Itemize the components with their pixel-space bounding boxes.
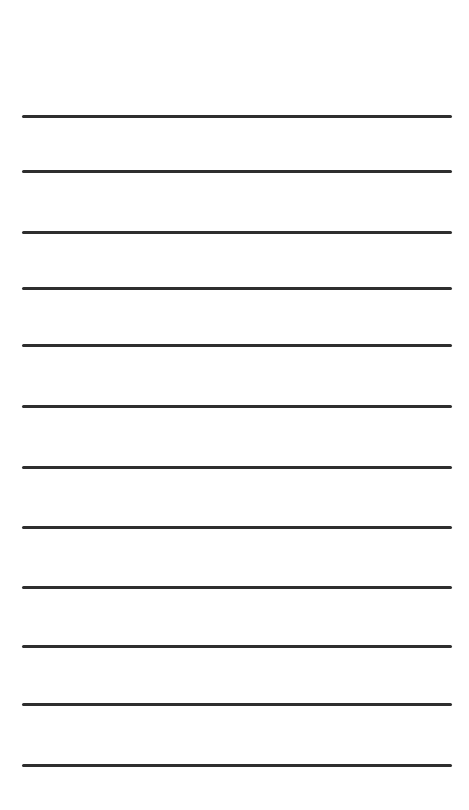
ruled-line [22,645,452,648]
ruled-line [22,344,452,347]
ruled-line [22,231,452,234]
ruled-line [22,170,452,173]
ruled-line [22,466,452,469]
ruled-line [22,115,452,118]
ruled-line [22,287,452,290]
ruled-line [22,405,452,408]
ruled-line [22,526,452,529]
ruled-line [22,703,452,706]
ruled-line [22,764,452,767]
ruled-line [22,586,452,589]
